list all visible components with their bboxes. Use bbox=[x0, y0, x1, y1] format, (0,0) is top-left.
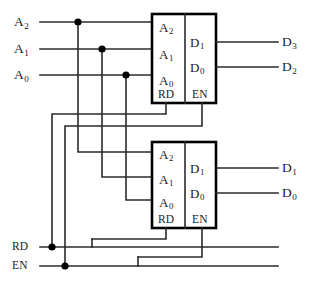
chip-upper-pin-en: EN bbox=[192, 89, 208, 101]
output-label-d0: D0 bbox=[282, 186, 297, 202]
chip-lower-pin-a1: A1 bbox=[159, 173, 173, 188]
wire-a2-to-chip2 bbox=[78, 22, 152, 152]
chip-lower-pin-rd: RD bbox=[158, 214, 174, 226]
chip-lower-pin-d1: D1 bbox=[190, 162, 204, 177]
junction-dot-a2 bbox=[74, 18, 81, 25]
chip-upper-pin-a2: A2 bbox=[159, 21, 173, 36]
chip-lower-pin-a2: A2 bbox=[159, 148, 173, 163]
junction-dot-en bbox=[61, 262, 68, 269]
chip-lower-pin-d0: D0 bbox=[190, 187, 204, 202]
output-label-d2: D2 bbox=[282, 60, 297, 76]
input-label-en: EN bbox=[12, 260, 28, 272]
input-label-a0: A0 bbox=[14, 68, 29, 84]
input-label-rd: RD bbox=[12, 241, 28, 253]
wire-a1-to-chip2 bbox=[102, 49, 152, 177]
chip-upper-pin-rd: RD bbox=[158, 89, 174, 101]
circuit-diagram: A2 A1 A0 RD EN A2 A1 A0 D1 D0 RD EN A2 A… bbox=[0, 0, 316, 288]
chip-upper-pin-d1: D1 bbox=[190, 36, 204, 51]
circuit-schematic-svg bbox=[0, 0, 316, 288]
chip-lower-pin-en: EN bbox=[192, 214, 208, 226]
junction-dot-a1 bbox=[98, 45, 105, 52]
input-label-a2: A2 bbox=[14, 15, 29, 31]
wire-rd-to-chip2 bbox=[92, 228, 166, 239]
output-label-d3: D3 bbox=[282, 35, 297, 51]
wire-a0-to-chip2 bbox=[126, 75, 152, 200]
chip-upper-pin-d0: D0 bbox=[190, 61, 204, 76]
input-label-a1: A1 bbox=[14, 42, 29, 58]
junction-dot-rd bbox=[48, 243, 55, 250]
wire-en-to-chip2 bbox=[138, 228, 202, 257]
output-label-d1: D1 bbox=[282, 161, 297, 177]
chip-lower-pin-a0: A0 bbox=[159, 196, 173, 211]
chip-upper-pin-a1: A1 bbox=[159, 48, 173, 63]
wire-rd-to-chip1 bbox=[52, 103, 166, 247]
junction-dot-a0 bbox=[122, 71, 129, 78]
